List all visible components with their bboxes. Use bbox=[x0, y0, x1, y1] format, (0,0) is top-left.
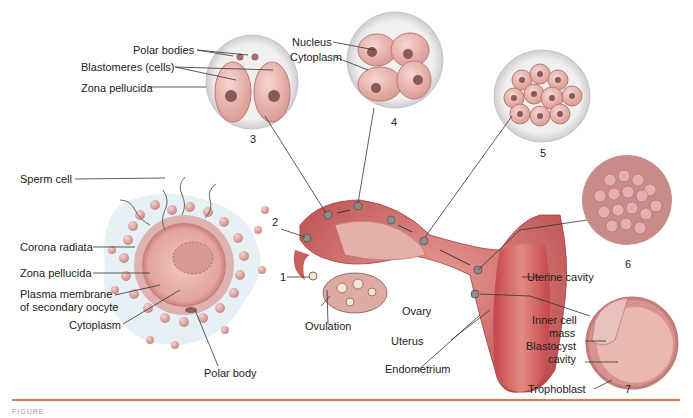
stage-3-number: 3 bbox=[250, 133, 256, 145]
label-ovary: Ovary bbox=[402, 305, 431, 317]
four-cell-embryo bbox=[347, 12, 443, 108]
label-uterus: Uterus bbox=[391, 335, 423, 347]
label-cytoplasm: Cytoplasm bbox=[69, 319, 121, 331]
stage-1-number: 1 bbox=[280, 271, 286, 283]
label-nucleus: Nucleus bbox=[292, 36, 332, 48]
blastocyst bbox=[587, 298, 677, 388]
morula-embryo bbox=[494, 50, 590, 142]
stage-5-number: 5 bbox=[540, 147, 546, 159]
two-cell-embryo bbox=[206, 35, 298, 129]
label-inner-cell-mass: mass bbox=[549, 327, 575, 339]
label-polar-bodies: Polar bodies bbox=[133, 44, 194, 56]
stage-6-number: 6 bbox=[625, 258, 631, 270]
stage-4-number: 4 bbox=[391, 116, 397, 128]
label-corona-radiata: Corona radiata bbox=[20, 241, 93, 253]
label-ovulation: Ovulation bbox=[305, 320, 351, 332]
label-zona-pellucida-top: Zona pellucida bbox=[81, 82, 153, 94]
secondary-oocyte bbox=[104, 177, 269, 349]
label-cytoplasm-top: Cytoplasm bbox=[290, 51, 342, 63]
stage-2-number: 2 bbox=[272, 216, 278, 228]
label-sperm-cell: Sperm cell bbox=[20, 173, 72, 185]
label-polar-body: Polar body bbox=[204, 367, 257, 379]
label-plasma-membrane-2: of secondary oocyte bbox=[20, 301, 118, 313]
label-trophoblast: Trophoblast bbox=[528, 383, 586, 395]
label-plasma-membrane: Plasma membrane bbox=[20, 288, 112, 300]
label-inner-cell: Inner cell bbox=[532, 314, 577, 326]
label-endometrium: Endometrium bbox=[385, 363, 450, 375]
solid-morula bbox=[582, 155, 672, 245]
label-blastomeres: Blastomeres (cells) bbox=[81, 61, 175, 73]
label-blastocyst: Blastocyst bbox=[526, 340, 576, 352]
embryo-development-figure: Polar bodies Blastomeres (cells) Zona pe… bbox=[0, 0, 693, 418]
label-zona-pellucida: Zona pellucida bbox=[20, 267, 92, 279]
label-blastocyst-cavity: cavity bbox=[548, 353, 576, 365]
figure-caption: FIGURE bbox=[12, 408, 44, 415]
label-uterine-cavity: Uterine cavity bbox=[527, 271, 594, 283]
caption-divider bbox=[12, 399, 680, 401]
stage-7-number: 7 bbox=[625, 383, 631, 395]
